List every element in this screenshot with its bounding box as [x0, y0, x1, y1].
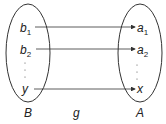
- element-a1: a1: [137, 21, 149, 37]
- function-label: g: [73, 106, 80, 120]
- ellipsis-dots-b: [24, 62, 25, 77]
- set-a-label: A: [135, 106, 144, 120]
- element-x: x: [136, 82, 144, 96]
- element-a2: a2: [137, 43, 149, 59]
- set-b-label: B: [24, 106, 32, 120]
- element-y: y: [21, 82, 29, 96]
- element-b2: b2: [20, 43, 32, 59]
- element-b1: b1: [20, 21, 32, 37]
- mapping-diagram: b1 b2 y a1 a2 x B g A: [0, 0, 166, 124]
- ellipsis-dots-a: [136, 64, 137, 79]
